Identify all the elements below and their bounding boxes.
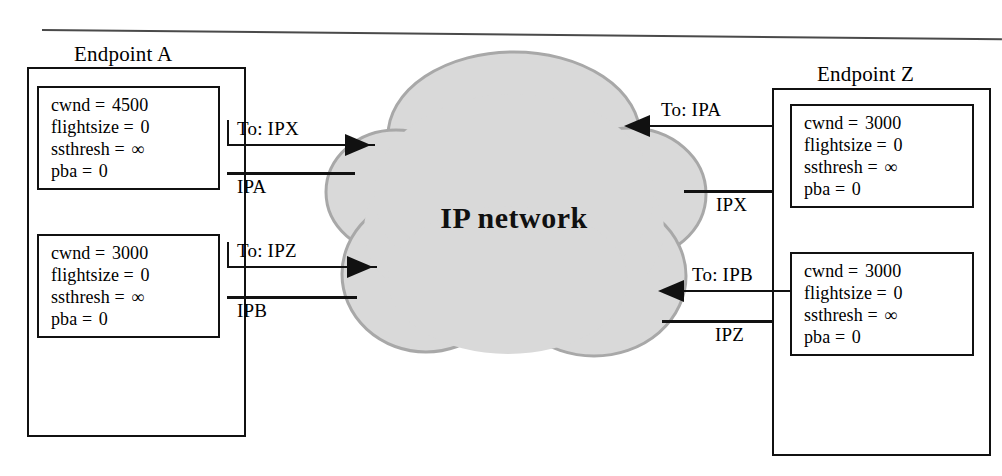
page-rule <box>42 29 1002 40</box>
state-var-name: flightsize <box>51 265 119 285</box>
link-z-lower-return-line <box>662 320 772 323</box>
state-var-name: pba <box>51 161 77 181</box>
state-line: ssthresh = ∞ <box>804 156 962 178</box>
state-eq: = <box>114 287 124 307</box>
link-z-lower-dest-label: To: IPB <box>692 264 753 286</box>
state-line: ssthresh = ∞ <box>804 304 962 326</box>
state-line: ssthresh = ∞ <box>51 138 208 160</box>
state-value: 0 <box>893 283 902 303</box>
state-var-name: flightsize <box>51 117 119 137</box>
state-eq: = <box>877 135 887 155</box>
state-value: ∞ <box>884 305 897 325</box>
state-var-name: ssthresh <box>51 287 110 307</box>
link-z-lower-src-label: IPZ <box>715 324 744 346</box>
state-line: ssthresh = ∞ <box>51 286 208 308</box>
link-a-lower-src-label: IPB <box>237 300 267 322</box>
link-z-upper-arrowhead <box>624 115 650 137</box>
link-a-upper-dest-label: To: IPX <box>237 118 299 140</box>
state-value: 0 <box>893 135 902 155</box>
link-z-upper-line <box>650 125 772 127</box>
state-eq: = <box>848 261 858 281</box>
figure-canvas: Endpoint A cwnd = 4500 flightsize = 0 ss… <box>0 0 1002 476</box>
state-eq: = <box>114 139 124 159</box>
state-value: 3000 <box>112 243 148 263</box>
state-var-name: flightsize <box>804 135 872 155</box>
state-var-name: ssthresh <box>804 305 863 325</box>
state-var-name: cwnd <box>51 243 90 263</box>
state-var-name: ssthresh <box>804 157 863 177</box>
state-value: ∞ <box>131 139 144 159</box>
link-z-lower-line <box>684 290 790 292</box>
link-z-upper-dest-label: To: IPA <box>661 99 721 121</box>
state-value: 0 <box>99 309 108 329</box>
link-a-lower-arrowhead <box>347 256 373 278</box>
state-line: flightsize = 0 <box>51 116 208 138</box>
state-line: pba = 0 <box>804 178 962 200</box>
state-line: cwnd = 3000 <box>804 260 962 282</box>
link-z-lower-tick <box>772 289 774 323</box>
state-value: 4500 <box>112 95 148 115</box>
state-eq: = <box>867 305 877 325</box>
endpoint-z-state-box-1: cwnd = 3000 flightsize = 0 ssthresh = ∞ … <box>790 104 974 208</box>
state-line: cwnd = 4500 <box>51 94 208 116</box>
state-value: 3000 <box>865 261 901 281</box>
link-a-lower-tick <box>227 242 229 268</box>
link-z-upper-return-line <box>684 190 772 193</box>
state-value: ∞ <box>884 157 897 177</box>
state-value: 0 <box>99 161 108 181</box>
state-eq: = <box>124 117 134 137</box>
state-value: 0 <box>852 179 861 199</box>
state-eq: = <box>82 161 92 181</box>
endpoint-a-title: Endpoint A <box>74 42 172 66</box>
link-a-upper-tick <box>227 120 229 146</box>
state-line: flightsize = 0 <box>804 134 962 156</box>
link-a-lower-return-line <box>227 296 357 299</box>
link-a-lower-dest-label: To: IPZ <box>237 240 297 262</box>
state-var-name: pba <box>804 327 830 347</box>
link-a-upper-src-label: IPA <box>237 176 266 198</box>
state-line: cwnd = 3000 <box>51 242 208 264</box>
state-eq: = <box>835 327 845 347</box>
state-value: 3000 <box>865 113 901 133</box>
state-value: ∞ <box>131 287 144 307</box>
state-eq: = <box>82 309 92 329</box>
state-var-name: cwnd <box>51 95 90 115</box>
link-z-upper-tick <box>772 124 774 192</box>
state-value: 0 <box>140 117 149 137</box>
state-eq: = <box>835 179 845 199</box>
state-line: pba = 0 <box>51 160 208 182</box>
state-line: pba = 0 <box>51 308 208 330</box>
state-line: flightsize = 0 <box>804 282 962 304</box>
cloud-label: IP network <box>318 201 710 235</box>
state-line: cwnd = 3000 <box>804 112 962 134</box>
link-z-lower-arrowhead <box>658 280 684 302</box>
state-var-name: cwnd <box>804 261 843 281</box>
state-eq: = <box>95 95 105 115</box>
state-line: flightsize = 0 <box>51 264 208 286</box>
state-line: pba = 0 <box>804 326 962 348</box>
state-var-name: pba <box>804 179 830 199</box>
state-eq: = <box>95 243 105 263</box>
state-eq: = <box>848 113 858 133</box>
state-eq: = <box>877 283 887 303</box>
state-value: 0 <box>140 265 149 285</box>
link-z-upper-src-label: IPX <box>716 194 747 216</box>
endpoint-a-state-box-1: cwnd = 4500 flightsize = 0 ssthresh = ∞ … <box>37 86 220 190</box>
state-value: 0 <box>852 327 861 347</box>
state-var-name: cwnd <box>804 113 843 133</box>
endpoint-z-title: Endpoint Z <box>817 62 914 86</box>
state-var-name: pba <box>51 309 77 329</box>
link-a-upper-arrowhead <box>345 134 371 156</box>
state-eq: = <box>867 157 877 177</box>
state-var-name: ssthresh <box>51 139 110 159</box>
ip-network-cloud: IP network <box>318 44 710 366</box>
state-eq: = <box>124 265 134 285</box>
state-var-name: flightsize <box>804 283 872 303</box>
endpoint-z-state-box-2: cwnd = 3000 flightsize = 0 ssthresh = ∞ … <box>790 252 974 356</box>
link-a-upper-return-line <box>227 172 355 175</box>
endpoint-a-state-box-2: cwnd = 3000 flightsize = 0 ssthresh = ∞ … <box>37 234 220 338</box>
